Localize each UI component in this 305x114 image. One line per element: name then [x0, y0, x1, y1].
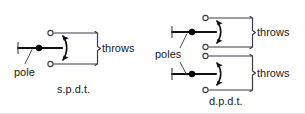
spdt-throws-label: throws: [102, 42, 135, 54]
dpdt-throws-brace-upper: [250, 17, 256, 49]
dpdt-poles-label: poles: [155, 48, 182, 60]
spdt-symbol-group: pole throws s.p.d.t.: [14, 30, 135, 95]
dpdt-throws-brace-lower: [250, 55, 256, 92]
spdt-caption: s.p.d.t.: [57, 83, 90, 95]
dpdt-throw-terminal-4: [203, 87, 208, 92]
dpdt-throw-terminal-2: [203, 44, 208, 49]
switch-symbols-diagram: pole throws s.p.d.t. throws: [0, 0, 305, 114]
spdt-pole-leader-line: [25, 50, 32, 65]
spdt-throw-terminal-upper: [48, 30, 53, 35]
spdt-pole-label: pole: [14, 66, 35, 78]
dpdt-pivot-dot-upper: [189, 29, 195, 35]
dpdt-throw-terminal-3: [203, 53, 208, 58]
spdt-throws-brace: [95, 32, 101, 66]
dpdt-caption: d.p.d.t.: [209, 95, 243, 107]
spdt-throw-terminal-lower: [48, 61, 53, 66]
dpdt-poles-leader-upper: [180, 34, 187, 49]
dpdt-throws-label-lower: throws: [257, 67, 290, 79]
spdt-pivot-dot: [36, 45, 42, 51]
figure-canvas: pole throws s.p.d.t. throws: [0, 0, 305, 114]
dpdt-throws-label-upper: throws: [257, 26, 290, 38]
dpdt-symbol-group: throws throws poles d.p.d.t.: [155, 15, 290, 107]
dpdt-throw-terminal-1: [203, 15, 208, 20]
dpdt-pivot-dot-lower: [189, 71, 195, 77]
